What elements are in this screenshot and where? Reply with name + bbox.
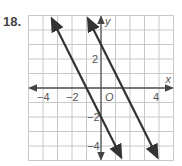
y-tick-label: −4	[87, 140, 100, 152]
y-axis-label: y	[104, 15, 112, 27]
coordinate-graph: −4−242−2−4Oxy	[0, 0, 182, 166]
y-tick-label: 2	[92, 53, 98, 65]
origin-label: O	[105, 91, 114, 103]
x-axis-label: x	[165, 73, 172, 85]
y-tick-label: −2	[87, 111, 100, 123]
x-tick-label: 4	[153, 91, 159, 103]
x-tick-label: −2	[66, 91, 79, 103]
x-tick-label: −4	[37, 91, 50, 103]
